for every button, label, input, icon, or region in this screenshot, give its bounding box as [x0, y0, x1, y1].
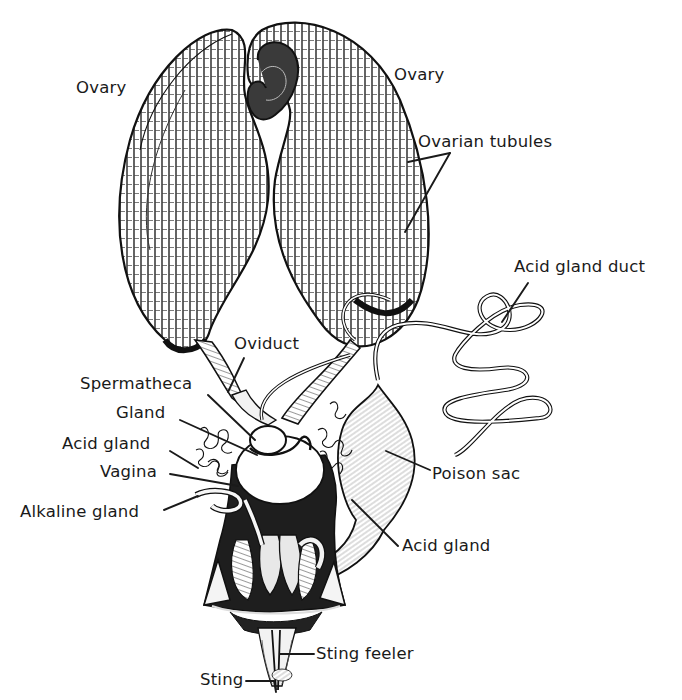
label-ovarian-tubules: Ovarian tubules [418, 134, 552, 151]
left-ovary [119, 30, 268, 351]
label-sting-feeler: Sting feeler [316, 646, 414, 663]
diagram-stage: OvaryOvaryOvarian tubulesAcid gland duct… [0, 0, 682, 700]
label-vagina: Vagina [100, 464, 157, 481]
label-poison-sac: Poison sac [432, 466, 520, 483]
leader-line-vagina [170, 474, 238, 486]
label-acid-gland-duct: Acid gland duct [514, 259, 645, 276]
leader-line-gland [180, 420, 257, 455]
leader-line-alkaline-gland [164, 496, 198, 510]
label-acid-gland-left: Acid gland [62, 436, 150, 453]
leader-line-acid-gland-left [170, 451, 198, 468]
label-ovary-right: Ovary [394, 67, 444, 84]
label-spermatheca: Spermatheca [80, 376, 192, 393]
label-sting: Sting [200, 672, 243, 689]
label-acid-gland-right: Acid gland [402, 538, 490, 555]
label-ovary-left: Ovary [76, 80, 126, 97]
label-oviduct: Oviduct [234, 336, 299, 353]
label-alkaline-gland: Alkaline gland [20, 504, 139, 521]
label-gland: Gland [116, 405, 165, 422]
bee-anatomy-illustration [0, 0, 682, 700]
central-body [196, 426, 345, 635]
